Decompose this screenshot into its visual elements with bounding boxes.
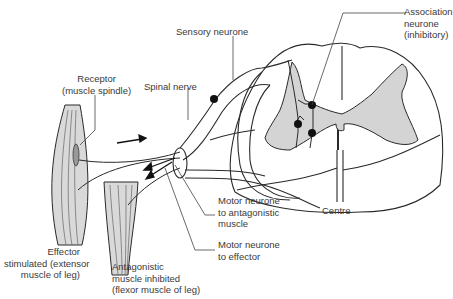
label-motor-neurone-antagonistic: Motor neurone to antagonistic muscle <box>218 195 280 230</box>
label-receptor: Receptor (muscle spindle) <box>62 73 131 96</box>
motor-neurone-body-1 <box>294 120 302 128</box>
label-sensory-neurone: Sensory neurone <box>176 26 248 38</box>
label-centre: Centre <box>322 205 351 217</box>
label-spinal-nerve: Spinal nerve <box>144 81 197 93</box>
label-antagonistic-muscle: Antagonistic muscle inhibited (flexor mu… <box>112 261 200 296</box>
sensory-cell-body <box>210 95 218 103</box>
effector-muscle <box>52 105 88 245</box>
label-effector: Effector stimulated (extensor muscle of … <box>4 246 80 281</box>
label-motor-neurone-effector: Motor neurone to effector <box>218 239 280 262</box>
motor-neurone-body-2 <box>308 129 316 137</box>
label-association-neurone: Association neurone (inhibitory) <box>404 6 453 41</box>
